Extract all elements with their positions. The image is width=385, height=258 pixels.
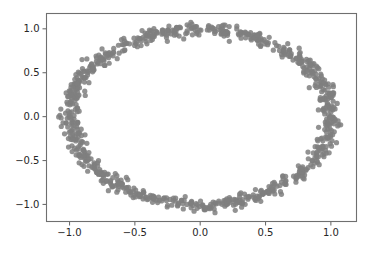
scatter-point: [91, 160, 96, 165]
scatter-point: [114, 190, 119, 195]
x-tick-label: 0.5: [258, 227, 274, 238]
scatter-point: [151, 195, 156, 200]
scatter-point: [99, 46, 104, 51]
scatter-point: [265, 42, 270, 47]
scatter-point: [107, 61, 112, 66]
scatter-point: [235, 200, 240, 205]
scatter-point: [77, 152, 82, 157]
scatter-point: [193, 28, 198, 33]
scatter-point: [139, 28, 144, 33]
scatter-point: [179, 198, 184, 203]
scatter-point: [98, 61, 103, 66]
scatter-point: [253, 187, 258, 192]
scatter-point: [267, 191, 272, 196]
scatter-point: [70, 137, 75, 142]
scatter-plot-canvas: −1.0−0.50.00.51.0−1.0−0.50.00.51.0: [0, 0, 385, 258]
scatter-point: [98, 55, 103, 60]
scatter-point: [109, 184, 114, 189]
scatter-point: [70, 149, 75, 154]
scatter-point: [258, 36, 263, 41]
scatter-point: [307, 85, 312, 90]
scatter-point: [222, 23, 227, 28]
scatter-point: [111, 50, 116, 55]
scatter-point: [93, 53, 98, 58]
scatter-point: [82, 75, 87, 80]
matplotlib-figure: −1.0−0.50.00.51.0−1.0−0.50.00.51.0: [0, 0, 385, 258]
x-tick-label: −0.5: [123, 227, 147, 238]
scatter-point: [181, 36, 186, 41]
scatter-point: [267, 35, 272, 40]
scatter-point: [299, 166, 304, 171]
scatter-point: [299, 59, 304, 64]
scatter-point: [335, 123, 340, 128]
scatter-point: [185, 30, 190, 35]
y-tick-label: 0.0: [24, 111, 40, 122]
scatter-point: [172, 199, 177, 204]
scatter-point: [137, 192, 142, 197]
scatter-point: [185, 22, 190, 27]
scatter-point: [324, 135, 329, 140]
scatter-point: [212, 206, 217, 211]
scatter-point: [189, 205, 194, 210]
scatter-point: [326, 81, 331, 86]
scatter-point: [148, 32, 153, 37]
scatter-point: [131, 36, 136, 41]
scatter-point: [99, 178, 104, 183]
scatter-point: [304, 69, 309, 74]
scatter-point: [123, 190, 128, 195]
scatter-point: [236, 32, 241, 37]
scatter-point: [69, 143, 74, 148]
scatter-point: [80, 66, 85, 71]
scatter-point: [272, 40, 277, 45]
scatter-point: [146, 196, 151, 201]
scatter-point: [291, 174, 296, 179]
scatter-point: [104, 178, 109, 183]
scatter-point: [89, 61, 94, 66]
scatter-point: [80, 140, 85, 145]
scatter-point: [297, 46, 302, 51]
scatter-point: [305, 150, 310, 155]
scatter-point: [210, 25, 215, 30]
scatter-point: [124, 175, 129, 180]
scatter-point: [122, 39, 127, 44]
y-tick-label: −0.5: [15, 155, 39, 166]
scatter-point: [330, 132, 335, 137]
scatter-point: [141, 35, 146, 40]
scatter-point: [279, 179, 284, 184]
scatter-point: [87, 163, 92, 168]
scatter-point: [79, 162, 84, 167]
scatter-point: [326, 122, 331, 127]
scatter-point: [101, 172, 106, 177]
scatter-point: [154, 30, 159, 35]
scatter-point: [318, 136, 323, 141]
scatter-point: [144, 41, 149, 46]
scatter-point: [227, 198, 232, 203]
scatter-point: [277, 48, 282, 53]
scatter-point: [106, 171, 111, 176]
scatter-point: [297, 54, 302, 59]
scatter-point: [308, 162, 313, 167]
scatter-point: [285, 41, 290, 46]
scatter-point: [316, 76, 321, 81]
scatter-point: [278, 189, 283, 194]
scatter-point: [76, 131, 81, 136]
scatter-point: [76, 146, 81, 151]
scatter-point: [58, 106, 63, 111]
x-tick-label: −1.0: [57, 227, 81, 238]
scatter-point: [329, 144, 334, 149]
scatter-point: [296, 174, 301, 179]
scatter-point: [173, 29, 178, 34]
scatter-point: [319, 97, 324, 102]
scatter-point: [310, 71, 315, 76]
scatter-point: [65, 108, 70, 113]
scatter-point: [165, 27, 170, 32]
scatter-point: [62, 131, 67, 136]
scatter-point: [306, 156, 311, 161]
scatter-point: [72, 77, 77, 82]
scatter-point: [282, 46, 287, 51]
scatter-point: [155, 200, 160, 205]
scatter-point: [59, 115, 64, 120]
scatter-point: [314, 150, 319, 155]
scatter-point: [324, 151, 329, 156]
scatter-point: [116, 43, 121, 48]
